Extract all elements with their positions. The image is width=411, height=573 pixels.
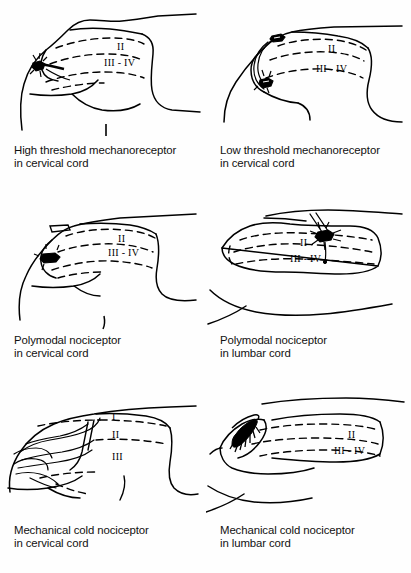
lamina-label: III - IV [316,63,348,74]
lamina-label: II [300,237,307,248]
panel-mechanical-cold-nociceptor-cervical: I II III Mechanical cold nociceptor in c… [0,382,205,573]
panel-caption: Mechanical cold nociceptor in cervical c… [14,524,149,551]
panel-caption: Low threshold mechanoreceptor in cervica… [220,144,380,171]
lamina-label: III - IV [104,57,136,68]
caption-line-2: in cervical cord [14,347,121,360]
dorsal-horn-drawing: II III - IV [206,2,411,147]
lamina-label: III - IV [334,445,366,456]
lamina-label: III [112,451,123,462]
caption-line-2: in cervical cord [14,157,176,170]
dorsal-horn-drawing: II III - IV [206,192,411,337]
panel-mechanical-cold-nociceptor-lumbar: II III - IV Mechanical cold nociceptor i… [206,382,411,573]
caption-line-1: High threshold mechanoreceptor [14,144,176,156]
caption-line-1: Polymodal nociceptor [14,334,121,346]
panel-caption: Polymodal nociceptor in cervical cord [14,334,121,361]
panel-caption: Mechanical cold nociceptor in lumbar cor… [220,524,355,551]
caption-line-1: Mechanical cold nociceptor [14,524,149,536]
panel-caption: High threshold mechanoreceptor in cervic… [14,144,176,171]
dorsal-horn-drawing: I II III [0,382,205,527]
dorsal-horn-drawing: II III - IV [206,382,411,527]
caption-line-2: in lumbar cord [220,347,327,360]
lamina-label: I [112,411,116,422]
panel-polymodal-nociceptor-cervical: II III - IV Polymodal nociceptor in cerv… [0,192,205,383]
caption-line-2: in cervical cord [14,537,149,550]
caption-line-1: Polymodal nociceptor [220,334,327,346]
dorsal-horn-drawing: II III - IV [0,192,205,337]
figure-panel-grid: II III - IV High threshold mechanorecept… [0,0,411,573]
dorsal-horn-drawing: II III - IV [0,2,205,147]
lamina-label: II [118,233,125,244]
panel-low-threshold-mechanoreceptor-cervical: II III - IV Low threshold mechanorecepto… [206,2,411,193]
caption-line-1: Mechanical cold nociceptor [220,524,355,536]
caption-line-1: Low threshold mechanoreceptor [220,144,380,156]
panel-caption: Polymodal nociceptor in lumbar cord [220,334,327,361]
lamina-label: III - IV [290,253,322,264]
lamina-label: III - IV [108,247,140,258]
panel-high-threshold-mechanoreceptor-cervical: II III - IV High threshold mechanorecept… [0,2,205,193]
lamina-label: II [117,41,124,52]
lamina-label: II [328,43,335,54]
lamina-label: II [112,429,119,440]
caption-line-2: in lumbar cord [220,537,355,550]
caption-line-2: in cervical cord [220,157,380,170]
panel-polymodal-nociceptor-lumbar: II III - IV Polymodal nociceptor in lumb… [206,192,411,383]
lamina-label: II [348,429,355,440]
